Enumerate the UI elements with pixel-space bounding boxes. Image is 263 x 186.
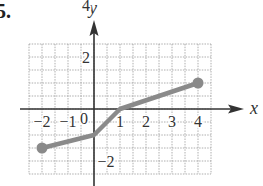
function-graph: xy −2−10123442−2−4 (0, 0, 263, 186)
y-tick-label: 2 (82, 49, 90, 66)
x-tick-label: 4 (194, 113, 202, 130)
x-tick-label: −1 (59, 113, 76, 130)
x-tick-label: 3 (168, 113, 176, 130)
x-tick-label: 2 (142, 113, 150, 130)
axes: xy (20, 0, 258, 186)
closed-endpoint-dot (193, 78, 204, 89)
y-tick-label: 4 (82, 0, 90, 14)
x-axis-label: x (249, 98, 258, 118)
x-tick-label: 1 (116, 113, 124, 130)
x-tick-label: 0 (80, 110, 88, 127)
x-tick-label: −2 (33, 113, 50, 130)
tick-labels: −2−10123442−2−4 (33, 0, 202, 186)
closed-endpoint-dot (37, 143, 48, 154)
y-tick-label: −2 (97, 153, 114, 170)
